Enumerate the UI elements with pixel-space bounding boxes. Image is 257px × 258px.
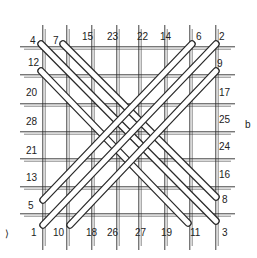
label-top-6: 6 bbox=[196, 31, 202, 42]
label-right-25: 25 bbox=[219, 114, 231, 125]
label-top-2: 2 bbox=[219, 31, 225, 42]
label-left-5: 5 bbox=[28, 200, 34, 211]
label-top-15: 15 bbox=[82, 31, 94, 42]
weaving-diagram: 4715232214621220282113591725241681101826… bbox=[0, 0, 257, 258]
label-bottom-10: 10 bbox=[53, 227, 65, 238]
panel-label: b bbox=[245, 119, 251, 130]
label-bottom-18: 18 bbox=[86, 227, 98, 238]
stray-mark: ⟩ bbox=[5, 228, 9, 239]
label-right-9: 9 bbox=[217, 58, 223, 69]
label-left-28: 28 bbox=[26, 116, 38, 127]
label-top-14: 14 bbox=[160, 31, 172, 42]
label-top-22: 22 bbox=[137, 31, 149, 42]
label-right-8: 8 bbox=[222, 194, 228, 205]
label-left-21: 21 bbox=[26, 145, 38, 156]
label-bottom-3: 3 bbox=[222, 227, 228, 238]
label-right-17: 17 bbox=[219, 87, 231, 98]
label-right-24: 24 bbox=[219, 141, 231, 152]
label-bottom-1: 1 bbox=[31, 227, 37, 238]
label-top-23: 23 bbox=[107, 31, 119, 42]
grid-row-line bbox=[20, 75, 235, 77]
label-top-4: 4 bbox=[30, 35, 36, 46]
label-left-13: 13 bbox=[26, 172, 38, 183]
label-bottom-19: 19 bbox=[161, 227, 173, 238]
label-left-12: 12 bbox=[28, 57, 40, 68]
label-top-7: 7 bbox=[53, 35, 59, 46]
label-left-20: 20 bbox=[26, 87, 38, 98]
label-bottom-27: 27 bbox=[135, 227, 147, 238]
label-bottom-11: 11 bbox=[190, 227, 201, 238]
label-bottom-26: 26 bbox=[107, 227, 119, 238]
diagram-canvas: 4715232214621220282113591725241681101826… bbox=[0, 0, 257, 258]
label-right-16: 16 bbox=[219, 169, 231, 180]
grid-row-line bbox=[20, 47, 235, 49]
